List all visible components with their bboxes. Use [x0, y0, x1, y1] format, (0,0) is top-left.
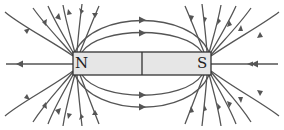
loop-bottom-inner	[82, 75, 202, 95]
south-pole-label: S	[197, 54, 207, 72]
field-lines	[0, 0, 284, 130]
north-pole-label: N	[75, 54, 88, 72]
bar-magnet-field-diagram: N S	[0, 0, 284, 130]
loop-top-inner	[82, 33, 202, 53]
loop-bottom-outer	[75, 75, 209, 107]
loop-top-outer	[75, 21, 209, 53]
